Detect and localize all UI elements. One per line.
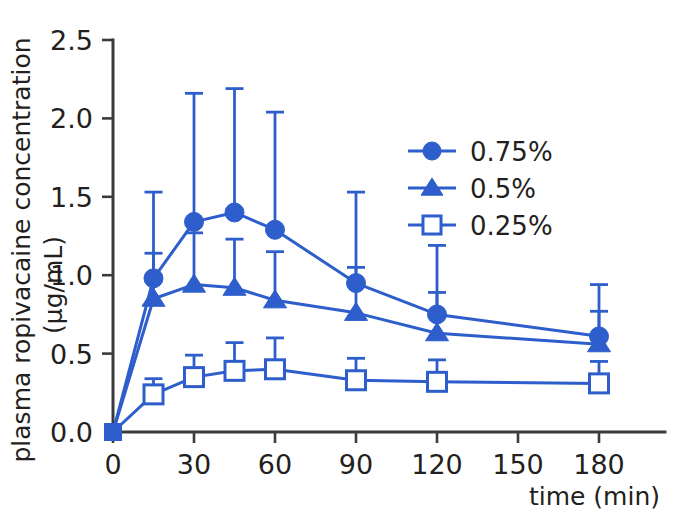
legend-label: 0.75% (470, 137, 553, 167)
y-tick-label: 1.5 (50, 182, 93, 213)
x-tick-label: 180 (573, 449, 625, 480)
data-series (113, 338, 609, 432)
x-axis-title: time (min) (529, 482, 660, 511)
origin-marker (104, 423, 122, 441)
error-bar (185, 93, 203, 222)
legend-label: 0.5% (470, 174, 536, 204)
marker-open-square (225, 361, 244, 380)
error-bar (266, 112, 284, 230)
marker-filled-circle (225, 203, 244, 222)
legend-item[interactable]: 0.25% (408, 211, 553, 241)
error-bar (226, 89, 244, 213)
marker-filled-circle (423, 142, 441, 160)
marker-open-square (423, 216, 441, 234)
data-series (113, 233, 611, 432)
marker-open-square (144, 385, 163, 404)
x-tick-label: 150 (492, 449, 544, 480)
y-tick-marks (102, 40, 113, 354)
marker-open-square (185, 368, 204, 387)
y-tick-label: 0.5 (50, 339, 93, 370)
legend-label: 0.25% (470, 211, 553, 241)
x-tick-labels: 0306090120150180 (104, 449, 624, 480)
legend-item[interactable]: 0.5% (408, 174, 536, 204)
marker-open-square (347, 371, 366, 390)
y-tick-label: 2.5 (50, 25, 93, 56)
x-tick-marks (113, 432, 599, 443)
line-chart-svg: 0.00.51.01.52.02.5 0306090120150180 plas… (0, 0, 687, 524)
marker-filled-triangle (183, 274, 206, 292)
chart-figure: 0.00.51.01.52.02.5 0306090120150180 plas… (0, 0, 687, 524)
marker-filled-circle (185, 212, 204, 231)
x-tick-label: 90 (339, 449, 373, 480)
marker-open-square (590, 374, 609, 393)
y-axis-title-line2: (μg/mL) (39, 236, 68, 334)
x-tick-label: 120 (411, 449, 463, 480)
marker-open-square (266, 360, 285, 379)
marker-filled-circle (266, 220, 285, 239)
legend-item[interactable]: 0.75% (408, 137, 553, 167)
x-tick-label: 30 (177, 449, 211, 480)
marker-open-square (428, 372, 447, 391)
y-tick-label: 2.0 (50, 103, 93, 134)
chart-legend: 0.75%0.5%0.25% (408, 137, 553, 241)
y-tick-label: 0.0 (50, 417, 93, 448)
x-tick-label: 0 (104, 449, 121, 480)
x-tick-label: 60 (258, 449, 292, 480)
y-axis-title-line1: plasma ropivacaine concentration (7, 37, 36, 462)
